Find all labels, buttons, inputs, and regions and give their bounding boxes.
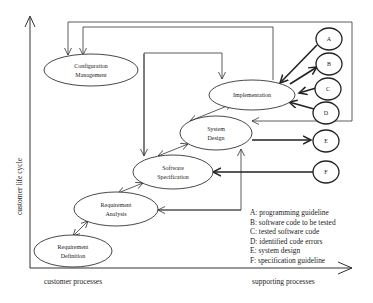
legend-item-d: D: identified code errors [250, 237, 323, 246]
process-requirement-definition: Requirement Definition [34, 235, 112, 267]
artifact-b: B [316, 53, 342, 75]
artifact-a: A [316, 28, 342, 50]
svg-text:D: D [324, 110, 329, 116]
svg-text:C: C [326, 86, 330, 92]
svg-text:Design: Design [208, 135, 225, 141]
svg-text:E: E [324, 138, 328, 144]
svg-text:Requirement: Requirement [58, 244, 89, 250]
artifact-e: E [313, 130, 339, 152]
svg-text:Definition: Definition [61, 253, 86, 259]
process-system-design: System Design [180, 116, 252, 150]
process-diagram: customer life cycle customer processes s… [0, 0, 373, 303]
svg-text:Requirement: Requirement [101, 202, 132, 208]
artifact-f: F [313, 161, 339, 183]
process-implementation: Implementation [209, 80, 295, 110]
legend-item-a: A: programming guideline [250, 208, 330, 217]
y-axis-label: customer life cycle [15, 157, 24, 215]
svg-text:System: System [207, 126, 225, 132]
svg-text:Implementation: Implementation [233, 92, 271, 98]
process-requirement-analysis: Requirement Analysis [74, 192, 158, 226]
svg-text:B: B [327, 61, 331, 67]
artifact-c: C [315, 78, 341, 100]
legend-item-c: C: tested software code [250, 227, 320, 236]
legend-item-e: E: system design [250, 246, 300, 255]
x-axis-label-right: supporting processes [252, 277, 315, 286]
process-software-specification: Software Specification [133, 155, 213, 189]
svg-text:A: A [327, 36, 332, 42]
legend-item-f: F: specification guideline [250, 256, 326, 265]
svg-text:Analysis: Analysis [106, 211, 128, 217]
artifact-d: D [313, 102, 339, 124]
x-axis-label-left: customer processes [44, 277, 102, 286]
process-configuration-management: Configuration Management [44, 54, 138, 86]
svg-text:Specification: Specification [157, 174, 189, 180]
svg-text:Configuration: Configuration [74, 63, 108, 69]
legend: A: programming guideline B: software cod… [250, 208, 336, 265]
legend-item-b: B: software code to be tested [250, 218, 336, 227]
y-axis [25, 16, 35, 268]
svg-text:Management: Management [75, 72, 107, 78]
svg-text:Software: Software [162, 165, 184, 171]
